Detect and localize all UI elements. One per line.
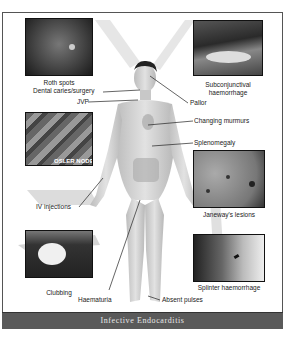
diagram-title: Infective Endocarditis (2, 313, 283, 329)
label-absent-pulses: Absent pulses (162, 297, 203, 304)
label-splenomegaly: Splenomegaly (194, 140, 235, 147)
label-pallor: Pallor (190, 100, 207, 107)
label-iv-injections: IV injections (36, 204, 71, 211)
label-changing-murmurs: Changing murmurs (194, 118, 249, 125)
label-dental-caries: Dental caries/surgery (33, 88, 94, 95)
title-bar: Infective Endocarditis (2, 312, 283, 329)
label-haematuria: Haematuria (78, 297, 112, 304)
leader-lines (0, 0, 291, 337)
label-jvp: JVP (77, 99, 89, 106)
